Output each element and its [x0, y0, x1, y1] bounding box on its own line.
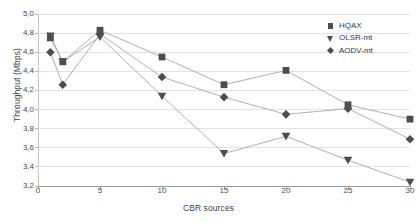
x-axis-title: CBR sources [0, 203, 417, 213]
triangle-down-marker-icon-glyph [327, 36, 333, 42]
data-point-diamond [406, 135, 415, 144]
data-point-square [407, 116, 414, 123]
data-point-square [283, 67, 290, 74]
x-axis-tick-label: 15 [209, 186, 239, 195]
legend-item-olsr-mt[interactable]: OLSR-mt [325, 32, 410, 45]
data-point-diamond [282, 110, 291, 119]
x-axis-tick-label: 10 [147, 186, 177, 195]
data-point-diamond [46, 48, 55, 57]
data-point-square [221, 81, 228, 88]
data-point-square [159, 54, 166, 61]
data-point-diamond [220, 93, 229, 102]
legend-item-aodv-mt[interactable]: AODV-mt [325, 44, 410, 57]
x-axis-tick-label: 20 [271, 186, 301, 195]
legend-item-label: AODV-mt [339, 46, 373, 55]
x-axis-tick-label: 25 [333, 186, 363, 195]
square-marker-icon [325, 20, 336, 31]
throughput-line-chart: Throughput (Mbps) 3,23,43,63,84,04,24,44… [0, 0, 417, 222]
x-axis-tick-label: 30 [395, 186, 417, 195]
data-point-diamond [59, 80, 68, 89]
x-axis-tick-label: 0 [23, 186, 53, 195]
legend-item-hqax[interactable]: HQAX [325, 19, 410, 32]
diamond-marker-icon-glyph [327, 47, 334, 54]
data-point-triangle [220, 150, 229, 158]
chart-legend: HQAXOLSR-mtAODV-mt [325, 19, 410, 57]
x-axis-tick-labels: 051015202530 [0, 186, 417, 200]
data-point-triangle [282, 133, 291, 141]
data-point-diamond [158, 73, 167, 82]
square-marker-icon-glyph [328, 23, 334, 29]
data-point-triangle [344, 157, 353, 165]
legend-item-label: HQAX [339, 21, 362, 30]
diamond-marker-icon [325, 45, 336, 56]
legend-item-label: OLSR-mt [339, 33, 372, 42]
x-axis-tick-label: 5 [85, 186, 115, 195]
triangle-down-marker-icon [325, 32, 336, 43]
